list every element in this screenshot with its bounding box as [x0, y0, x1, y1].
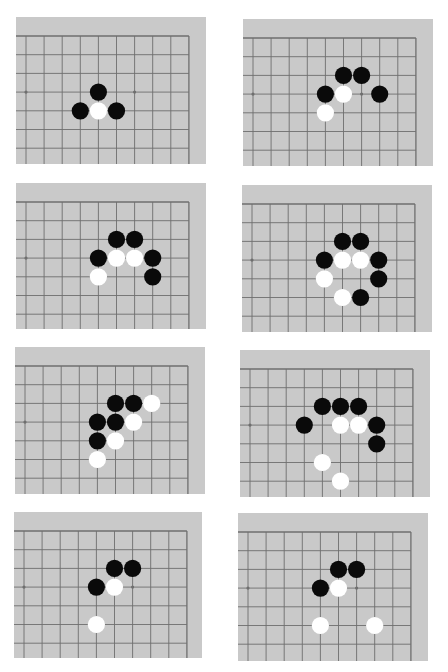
star-point [246, 587, 249, 590]
go-board-grid [238, 513, 428, 661]
black-stone [317, 86, 334, 103]
white-stone [316, 270, 333, 287]
black-stone [368, 417, 385, 434]
star-point [360, 93, 363, 96]
black-stone [144, 250, 161, 267]
black-stone [352, 289, 369, 306]
white-stone [334, 252, 351, 269]
white-stone [125, 414, 142, 431]
star-point [22, 586, 25, 589]
star-point [24, 257, 27, 260]
white-stone [352, 252, 369, 269]
star-point [133, 91, 136, 94]
white-stone [334, 289, 351, 306]
black-stone [108, 231, 125, 248]
white-stone [89, 451, 106, 468]
white-stone [350, 417, 367, 434]
black-stone [334, 233, 351, 250]
white-stone [143, 395, 160, 412]
black-stone [126, 231, 143, 248]
black-stone [335, 67, 352, 84]
black-stone [124, 560, 141, 577]
white-stone [106, 579, 123, 596]
white-stone [88, 616, 105, 633]
star-point [24, 91, 27, 94]
go-board-grid [242, 185, 432, 332]
black-stone [370, 252, 387, 269]
go-board-grid [14, 512, 202, 658]
go-diagram-2 [243, 19, 433, 166]
black-stone [89, 432, 106, 449]
white-stone [335, 86, 352, 103]
black-stone [371, 86, 388, 103]
go-diagram-5 [15, 347, 205, 494]
black-stone [108, 102, 125, 119]
go-diagram-7 [14, 512, 202, 658]
black-stone [348, 561, 365, 578]
black-stone [312, 580, 329, 597]
black-stone [370, 270, 387, 287]
black-stone [332, 398, 349, 415]
black-stone [90, 250, 107, 267]
black-stone [316, 252, 333, 269]
go-diagram-8 [238, 513, 428, 661]
black-stone [352, 233, 369, 250]
white-stone [107, 432, 124, 449]
star-point [248, 424, 251, 427]
black-stone [106, 560, 123, 577]
black-stone [353, 67, 370, 84]
white-stone [312, 617, 329, 634]
white-stone [314, 454, 331, 471]
white-stone [366, 617, 383, 634]
go-diagram-3 [16, 183, 206, 329]
black-stone [88, 579, 105, 596]
white-stone [108, 250, 125, 267]
black-stone [296, 417, 313, 434]
black-stone [90, 84, 107, 101]
star-point [23, 421, 26, 424]
go-diagram-6 [240, 350, 430, 497]
go-board-grid [16, 17, 206, 164]
black-stone [144, 268, 161, 285]
white-stone [332, 417, 349, 434]
black-stone [89, 414, 106, 431]
go-board-grid [243, 19, 433, 166]
black-stone [107, 395, 124, 412]
black-stone [125, 395, 142, 412]
star-point [131, 586, 134, 589]
black-stone [107, 414, 124, 431]
white-stone [90, 102, 107, 119]
black-stone [72, 102, 89, 119]
go-board-grid [16, 183, 206, 329]
white-stone [126, 250, 143, 267]
star-point [250, 259, 253, 262]
go-diagram-1 [16, 17, 206, 164]
go-board-grid [240, 350, 430, 497]
white-stone [330, 580, 347, 597]
go-board-grid [15, 347, 205, 494]
star-point [251, 93, 254, 96]
black-stone [350, 398, 367, 415]
black-stone [368, 435, 385, 452]
black-stone [330, 561, 347, 578]
black-stone [314, 398, 331, 415]
white-stone [317, 104, 334, 121]
white-stone [90, 268, 107, 285]
white-stone [332, 473, 349, 490]
go-diagram-4 [242, 185, 432, 332]
star-point [355, 587, 358, 590]
